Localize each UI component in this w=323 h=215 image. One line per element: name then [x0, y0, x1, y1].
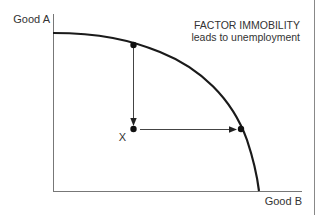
title-line-1: FACTOR IMMOBILITY	[194, 19, 300, 31]
point-x-label: X	[119, 131, 127, 143]
x-axis-label: Good B	[265, 195, 302, 207]
y-axis-label: Good A	[13, 13, 50, 25]
title-line-2: leads to unemployment	[191, 31, 300, 43]
frontier-point-upper	[130, 42, 136, 48]
frontier-point-right	[238, 126, 244, 132]
ppf-diagram: Good A Good B X FACTOR IMMOBILITY leads …	[0, 0, 323, 215]
ppf-curve	[53, 33, 259, 191]
point-x	[130, 126, 136, 132]
